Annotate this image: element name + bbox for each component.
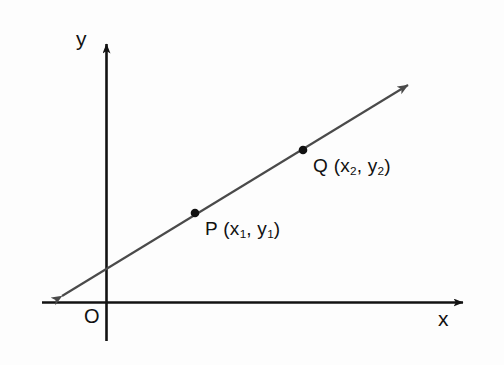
- point-label-q: Q (x2, y2): [313, 156, 391, 175]
- x-axis-label: x: [438, 308, 449, 329]
- origin-label: O: [84, 306, 100, 326]
- point-label-q-prefix: Q (x: [313, 155, 350, 176]
- point-label-q-suffix: ): [384, 155, 391, 176]
- point-label-p: P (x1, y1): [205, 219, 280, 238]
- point-label-q-sub-x: 2: [350, 164, 357, 177]
- coordinate-diagram: y x O P (x1, y1) Q (x2, y2): [0, 0, 504, 365]
- diagram-canvas: [0, 0, 504, 365]
- point-marker-p: [191, 209, 200, 218]
- point-label-q-sub-y: 2: [378, 164, 385, 177]
- line-through-points: [62, 85, 408, 296]
- point-marker-q: [299, 146, 308, 155]
- point-label-p-sub-x: 1: [240, 227, 247, 240]
- point-label-p-mid: , y: [246, 218, 267, 239]
- y-axis-label: y: [76, 28, 87, 49]
- point-label-p-suffix: ): [274, 218, 281, 239]
- point-label-q-mid: , y: [357, 155, 378, 176]
- point-label-p-sub-y: 1: [267, 227, 274, 240]
- point-label-p-prefix: P (x: [205, 218, 240, 239]
